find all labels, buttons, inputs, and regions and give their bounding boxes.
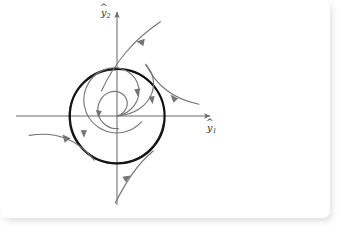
figure-root: ^y2 ^y1 — [0, 0, 341, 237]
inner-spiral-1-arrow — [96, 110, 102, 118]
x-axis-hat-accent: ^ — [206, 118, 214, 127]
y-axis-label-subscript: 2 — [106, 12, 110, 20]
y-axis-label: ^y2 — [101, 8, 111, 19]
outer-trajectories-group — [29, 22, 201, 203]
y-axis-hat-accent: ^ — [100, 3, 108, 12]
phase-portrait-plot — [0, 0, 341, 237]
outer-traj-lower-left-arrow — [63, 135, 71, 143]
outer-traj-lower-left — [29, 134, 94, 160]
outer-traj-bottom — [115, 151, 153, 203]
x-axis-label: ^y1 — [207, 123, 217, 134]
x-axis-label-subscript: 1 — [212, 127, 216, 135]
inner-spiral-2 — [84, 68, 142, 133]
axis-group — [16, 12, 210, 205]
spiral-arm-left-arrow — [81, 130, 87, 138]
